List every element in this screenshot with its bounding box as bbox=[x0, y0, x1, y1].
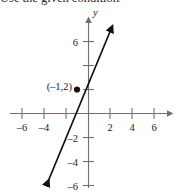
plotted-point-group: (–1,2) bbox=[47, 81, 80, 93]
y-tick-label-6: 6 bbox=[73, 37, 78, 48]
plotted-point-marker bbox=[74, 86, 80, 92]
x-tick-label-6: 6 bbox=[151, 122, 156, 133]
x-tick-label-2: 2 bbox=[107, 122, 112, 133]
plotted-line bbox=[47, 31, 111, 185]
x-tick-label-4: 4 bbox=[129, 122, 135, 133]
y-tick-label--4: –4 bbox=[67, 157, 79, 168]
x-tick-label--4: –4 bbox=[38, 122, 50, 133]
y-axis-name-label: y bbox=[92, 7, 98, 18]
plotted-point-label: (–1,2) bbox=[47, 81, 73, 93]
x-tick-label--6: –6 bbox=[16, 122, 28, 133]
line-segment bbox=[47, 31, 111, 185]
y-tick-label--6: –6 bbox=[67, 181, 79, 192]
figure-root: Use the given conditions to write an equ… bbox=[0, 0, 178, 191]
coordinate-plane-graph: –6 –4 2 4 6 6 –2 –4 –6 y bbox=[0, 0, 178, 191]
